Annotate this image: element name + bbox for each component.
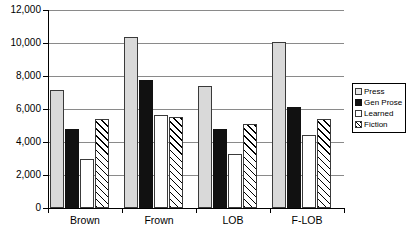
plot-area — [48, 10, 344, 208]
bar-fiction-lob — [243, 124, 257, 208]
legend-item-press[interactable]: Press — [355, 86, 403, 97]
x-axis-tick — [344, 208, 345, 213]
chart-legend: PressGen ProseLearnedFiction — [352, 83, 406, 133]
legend-item-label: Fiction — [364, 120, 388, 129]
y-axis-tick-label: 12,000 — [10, 5, 41, 15]
legend-swatch-icon — [355, 99, 362, 106]
legend-item-learned[interactable]: Learned — [355, 108, 403, 119]
bar-fiction-brown — [95, 119, 109, 208]
y-axis-tick-label: 8,000 — [16, 71, 41, 81]
x-axis-label-frown: Frown — [122, 213, 196, 227]
bar-fiction-f-lob — [317, 119, 331, 208]
bar-press-f-lob — [272, 42, 286, 208]
bar-chart: 02,0004,0006,0008,00010,00012,000 BrownF… — [0, 0, 409, 234]
legend-item-gen-prose[interactable]: Gen Prose — [355, 97, 403, 108]
bar-gen-prose-f-lob — [287, 107, 301, 208]
gridline — [48, 43, 344, 44]
bar-press-frown — [124, 37, 138, 208]
legend-swatch-icon — [355, 110, 362, 117]
legend-swatch-icon — [355, 121, 362, 128]
bar-gen-prose-brown — [65, 129, 79, 208]
y-axis-line — [48, 10, 49, 209]
bar-fiction-frown — [169, 117, 183, 208]
y-axis-tick-label: 6,000 — [16, 104, 41, 114]
y-axis-tick-label: 2,000 — [16, 170, 41, 180]
bar-learned-lob — [228, 154, 242, 208]
y-axis-tick-label: 4,000 — [16, 137, 41, 147]
gridline — [48, 76, 344, 77]
y-axis-labels: 02,0004,0006,0008,00010,00012,000 — [0, 0, 41, 220]
bar-learned-f-lob — [302, 135, 316, 208]
bar-press-brown — [50, 90, 64, 208]
x-axis-label-f-lob: F-LOB — [270, 213, 344, 227]
bar-press-lob — [198, 86, 212, 208]
legend-item-label: Learned — [364, 109, 393, 118]
x-axis-label-lob: LOB — [196, 213, 270, 227]
legend-item-label: Press — [364, 87, 384, 96]
bar-learned-brown — [80, 159, 94, 208]
y-axis-tick-label: 10,000 — [10, 38, 41, 48]
bar-gen-prose-lob — [213, 129, 227, 208]
y-axis-tick-label: 0 — [35, 203, 41, 213]
legend-item-fiction[interactable]: Fiction — [355, 119, 403, 130]
legend-item-label: Gen Prose — [364, 98, 402, 107]
x-axis-line — [43, 208, 345, 209]
bar-learned-frown — [154, 115, 168, 208]
x-axis-label-brown: Brown — [48, 213, 122, 227]
legend-swatch-icon — [355, 88, 362, 95]
gridline — [48, 10, 344, 11]
bar-gen-prose-frown — [139, 80, 153, 208]
